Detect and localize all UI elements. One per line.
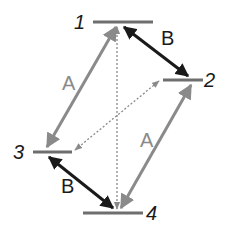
label-A-left: A <box>62 72 76 94</box>
energy-level-diagram: 1 2 3 4 A A B B <box>0 0 229 228</box>
level-2-label: 2 <box>203 69 215 91</box>
label-B-top: B <box>161 27 174 49</box>
label-A-right: A <box>140 129 154 151</box>
label-B-bottom: B <box>61 175 74 197</box>
level-4-label: 4 <box>146 202 157 224</box>
level-3-label: 3 <box>13 141 24 163</box>
arrow-B-1-2 <box>124 27 188 76</box>
arrow-A-3-1 <box>47 27 116 147</box>
level-1-label: 1 <box>74 11 85 33</box>
arrow-B-3-4 <box>49 157 113 208</box>
